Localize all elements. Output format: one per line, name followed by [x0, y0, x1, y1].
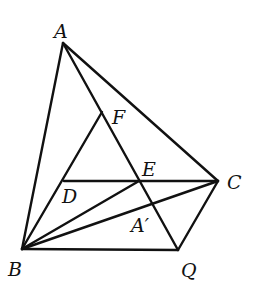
segment-AB [22, 43, 63, 249]
point-label-b: B [7, 258, 22, 280]
segments-group [22, 43, 218, 250]
point-label-c: C [227, 171, 242, 193]
point-label-q: Q [181, 259, 197, 281]
point-label-a-prime: A′ [129, 214, 150, 236]
point-label-d: D [61, 185, 77, 207]
segment-CQ [178, 181, 218, 250]
point-label-f: F [111, 106, 126, 128]
segment-AC [63, 43, 218, 181]
point-label-a: A [52, 20, 68, 42]
segment-BQ [22, 249, 178, 250]
segment-AQ [63, 43, 178, 250]
geometry-diagram: ABCQFEDA′ [0, 0, 259, 293]
point-label-e: E [141, 158, 156, 180]
